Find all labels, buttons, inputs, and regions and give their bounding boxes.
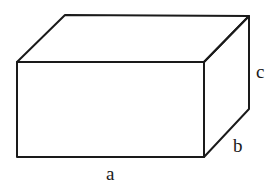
cuboid-diagram: c b a	[0, 0, 276, 187]
label-depth-b: b	[233, 135, 243, 156]
label-height-c: c	[256, 61, 264, 82]
front-face	[17, 62, 204, 157]
top-face	[17, 15, 249, 62]
label-length-a: a	[106, 163, 115, 184]
